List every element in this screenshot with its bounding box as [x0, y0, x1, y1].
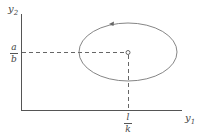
phase-plane-diagram: [0, 0, 200, 138]
x-axis-label: y1: [185, 113, 195, 127]
equilibrium-point: [126, 51, 130, 55]
x-equilibrium-label: l k: [124, 113, 132, 134]
y-axis-label: y2: [8, 4, 18, 18]
y-equilibrium-label: a b: [10, 43, 18, 64]
